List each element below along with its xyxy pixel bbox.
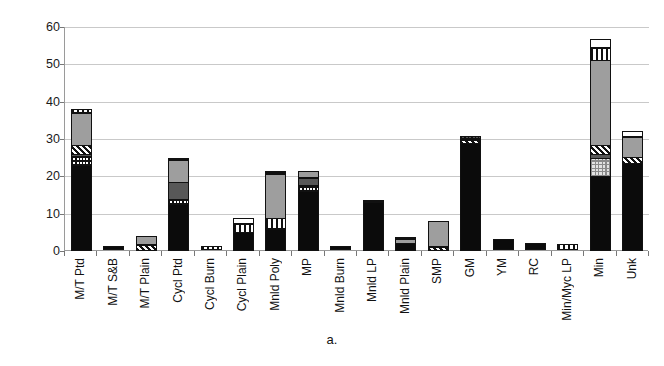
x-tick-label: YM [496, 258, 508, 276]
bar-segment-solid-black [265, 229, 286, 251]
bar-segment-mid-gray [265, 174, 286, 219]
x-tick-mark [226, 251, 227, 256]
x-tick-label: Mnld LP [366, 258, 378, 302]
gridline [65, 214, 649, 215]
x-tick-label: Cycl Plain [236, 258, 248, 311]
x-tick-mark [194, 251, 195, 256]
x-tick-label: Mnld Poly [269, 258, 281, 311]
bar-segment-solid-black [233, 232, 254, 251]
y-tick-label: 10 [26, 208, 60, 220]
bar-m-t-s-b[interactable] [103, 246, 124, 250]
bar-m-t-plain[interactable] [136, 236, 157, 250]
bar-segment-solid-black [363, 202, 384, 251]
x-tick-label: RC [528, 258, 540, 275]
bar-segment-solid-black [493, 239, 514, 250]
x-tick-mark [453, 251, 454, 256]
gridline [65, 102, 649, 103]
x-tick-mark [486, 251, 487, 256]
gridline [65, 176, 649, 177]
x-tick-mark [388, 251, 389, 256]
bar-min[interactable] [590, 39, 611, 250]
bar-segment-dark-gray [168, 182, 189, 201]
bar-segment-top-vline [590, 48, 611, 61]
x-tick-label: M/T Ptd [74, 258, 86, 300]
gridline [65, 64, 649, 65]
x-tick-label: Cycl Ptd [172, 258, 184, 303]
bar-segment-solid-black [395, 243, 416, 250]
bar-ym[interactable] [493, 239, 514, 250]
x-tick-label: Unk [626, 258, 638, 279]
bar-segment-solid-black [525, 243, 546, 250]
x-tick-label: SMP [431, 258, 443, 284]
x-tick-label: GM [464, 258, 476, 277]
x-axis-labels: M/T PtdM/T S&BM/T PlainCycl PtdCycl Burn… [64, 258, 648, 330]
x-tick-label: MP [301, 258, 313, 276]
bar-segment-solid-black [103, 246, 124, 250]
bar-segment-vert-line [557, 244, 578, 250]
bar-segment-mid-gray [71, 113, 92, 147]
bar-segment-mid-gray [168, 160, 189, 182]
y-tick-label: 20 [26, 170, 60, 182]
x-tick-mark [64, 251, 65, 256]
gridline [65, 27, 649, 28]
bar-segment-light-dot [590, 158, 611, 177]
bar-unk[interactable] [622, 131, 643, 250]
y-tick-label: 50 [26, 58, 60, 70]
bar-segment-mid-gray [136, 236, 157, 245]
bar-mp[interactable] [298, 171, 319, 250]
x-tick-mark [421, 251, 422, 256]
figure-caption: a. [0, 332, 664, 347]
x-tick-label: Mnld Burn [334, 258, 346, 313]
bar-segment-solid-black [330, 246, 351, 250]
x-tick-label: Min/Myc LP [561, 258, 573, 321]
bar-segment-solid-black [168, 204, 189, 251]
bar-mnld-poly[interactable] [265, 171, 286, 250]
bar-m-t-ptd[interactable] [71, 109, 92, 250]
y-tick-label: 40 [26, 96, 60, 108]
bar-segment-mid-gray [622, 137, 643, 158]
bar-cycl-burn[interactable] [201, 246, 222, 250]
y-axis: 0102030405060 [22, 27, 60, 251]
x-tick-mark [648, 251, 649, 256]
x-tick-mark [129, 251, 130, 256]
bar-smp[interactable] [428, 221, 449, 250]
x-tick-mark [356, 251, 357, 256]
bar-gm[interactable] [460, 136, 481, 250]
x-tick-label: Min [593, 258, 605, 277]
x-tick-mark [96, 251, 97, 256]
bar-segment-solid-black [298, 191, 319, 251]
x-tick-mark [259, 251, 260, 256]
bar-mnld-lp[interactable] [363, 200, 384, 250]
y-tick-label: 0 [26, 245, 60, 257]
bar-segment-solid-black [590, 176, 611, 251]
x-tick-label: Cycl Burn [204, 258, 216, 310]
x-tick-mark [291, 251, 292, 256]
y-tick-label: 60 [26, 21, 60, 33]
bar-rc[interactable] [525, 243, 546, 250]
bar-mnld-plain[interactable] [395, 237, 416, 250]
bar-cycl-plain[interactable] [233, 218, 254, 250]
x-tick-label: M/T S&B [107, 258, 119, 306]
x-tick-mark [161, 251, 162, 256]
bar-mnld-burn[interactable] [330, 246, 351, 250]
x-tick-mark [583, 251, 584, 256]
bar-segment-white-cap [590, 39, 611, 48]
x-tick-mark [616, 251, 617, 256]
bar-segment-mid-gray [428, 221, 449, 247]
x-tick-label: M/T Plain [139, 258, 151, 308]
bar-segment-vert-line [201, 246, 222, 250]
bar-min-myc-lp[interactable] [557, 244, 578, 250]
gridline [65, 139, 649, 140]
x-tick-mark [551, 251, 552, 256]
x-tick-mark [324, 251, 325, 256]
x-tick-mark [518, 251, 519, 256]
bar-segment-solid-black [622, 163, 643, 251]
bar-cycl-ptd[interactable] [168, 158, 189, 250]
y-tick-label: 30 [26, 133, 60, 145]
bar-segment-solid-black [460, 143, 481, 251]
bar-segment-solid-black [71, 165, 92, 251]
x-tick-label: Mnld Plain [399, 258, 411, 314]
figure-a: 0102030405060 M/T PtdM/T S&BM/T PlainCyc… [0, 0, 664, 366]
bar-segment-mid-gray [298, 171, 319, 178]
plot-area [64, 27, 648, 251]
